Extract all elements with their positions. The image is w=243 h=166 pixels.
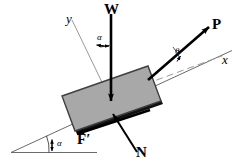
alpha-angle-label: α <box>97 33 102 42</box>
x-axis-line <box>146 56 223 85</box>
y-axis-label: y <box>66 12 72 25</box>
alpha-base-angle-label: α <box>57 139 62 148</box>
diagram-canvas <box>0 0 243 166</box>
incline-base-angle-arc <box>47 136 50 153</box>
applied-force-label: P <box>212 17 221 32</box>
x-axis-label: x <box>222 53 228 66</box>
friction-label: F′ <box>77 132 90 147</box>
free-body-diagram: W P F′ N x y α θ α <box>0 0 243 166</box>
theta-angle-label: θ <box>175 47 179 56</box>
normal-vector-arrow <box>113 114 137 152</box>
normal-label: N <box>136 145 147 160</box>
weight-label: W <box>104 2 119 17</box>
